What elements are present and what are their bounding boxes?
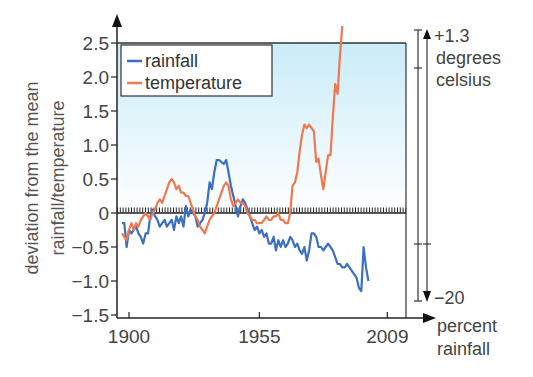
side-down-arrow-icon (423, 291, 431, 302)
y-tick-label: 2.0 (83, 67, 109, 88)
y-axis-arrow-icon (112, 14, 122, 27)
y-axis-title-line2: rainfall/temperature (48, 100, 68, 255)
x-tick-label: 2009 (366, 326, 408, 347)
y-tick-label: 0 (98, 203, 109, 224)
legend-rainfall-label: rainfall (145, 51, 198, 71)
side-top-value: +1.3 (434, 26, 470, 46)
x-axis: 190019552009 (108, 312, 436, 347)
side-top-unit-1: degrees (436, 48, 501, 68)
side-bottom-unit-2: rainfall (437, 339, 490, 359)
x-tick-label: 1900 (108, 326, 150, 347)
chart: 2.52.01.51.00.50−0.5−1.0−1.5 19001955200… (0, 0, 533, 377)
x-tick-label: 1955 (238, 326, 280, 347)
side-up-arrow-icon (423, 29, 431, 39)
y-tick-label: 2.5 (83, 33, 109, 54)
side-scale: +1.3 degrees celsius −20 percent rainfal… (414, 26, 501, 359)
y-axis: 2.52.01.51.00.50−0.5−1.0−1.5 (71, 14, 122, 326)
y-tick-label: −1.5 (71, 305, 109, 326)
side-bottom-unit-1: percent (437, 316, 497, 336)
y-tick-label: 1.5 (83, 101, 109, 122)
side-bottom-value: −20 (434, 288, 465, 308)
side-top-unit-2: celsius (436, 70, 491, 90)
y-tick-label: 1.0 (83, 135, 109, 156)
y-tick-label: −0.5 (71, 237, 109, 258)
y-tick-label: −1.0 (71, 271, 109, 292)
legend: rainfall temperature (121, 45, 272, 96)
y-tick-label: 0.5 (83, 169, 109, 190)
x-axis-arrow-icon (423, 313, 436, 323)
y-axis-title-line1: deviation from the mean (22, 81, 42, 274)
legend-temperature-label: temperature (145, 73, 242, 93)
